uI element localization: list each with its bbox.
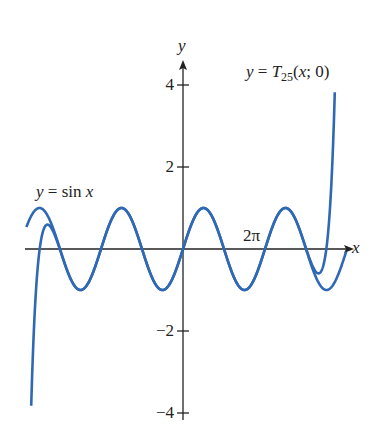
y-tick-label: 4 [144, 75, 174, 95]
two-pi-label: 2π [243, 226, 260, 246]
sin-legend-label: y = sin x [36, 182, 93, 202]
y-axis-label: y [178, 36, 186, 56]
x-axis-label: x [352, 238, 360, 258]
y-tick-label: −4 [144, 403, 174, 423]
taylor-legend-label: y = T25(x; 0) [246, 62, 329, 85]
y-tick-label: 2 [144, 157, 174, 177]
y-tick-label: −2 [144, 321, 174, 341]
